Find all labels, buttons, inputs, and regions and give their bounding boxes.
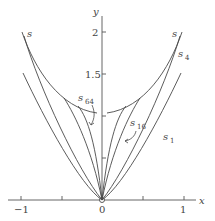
function-sequence-diagram: −1 0 1 x 2 1.5 y s s s 4 s 64 s 16 s 1 xyxy=(0,0,215,221)
curve-s-right xyxy=(107,32,182,113)
label-s64-sub: 64 xyxy=(85,98,94,106)
label-s4: s xyxy=(178,48,183,59)
label-s4-sub: 4 xyxy=(185,54,190,62)
label-s-left: s xyxy=(27,28,32,39)
y-tick-label-2: 2 xyxy=(92,27,98,38)
x-tick-label-0: 0 xyxy=(99,204,105,215)
label-s16: s xyxy=(130,117,135,128)
y-axis-label: y xyxy=(92,6,99,17)
y-tick-label-15: 1.5 xyxy=(85,69,101,80)
label-s64: s xyxy=(78,92,83,103)
label-s-right: s xyxy=(172,28,177,39)
label-s1-sub: 1 xyxy=(170,137,174,145)
x-tick-label-neg1: −1 xyxy=(14,204,29,215)
label-s16-sub: 16 xyxy=(137,123,146,131)
pointer-s64 xyxy=(91,105,94,125)
x-axis-label: x xyxy=(199,195,205,206)
label-s1: s xyxy=(163,131,168,142)
x-tick-label-1: 1 xyxy=(180,204,186,215)
